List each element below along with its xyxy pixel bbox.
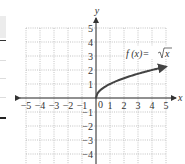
x-tick-label: 4 [150, 100, 155, 111]
x-tick-labels: −5−4−3−2−112345 [21, 100, 169, 111]
x-tick-label: −2 [63, 100, 74, 111]
x-tick-label: 3 [136, 100, 141, 111]
y-tick-label: −2 [82, 121, 93, 132]
y-tick-label: 4 [88, 37, 93, 48]
sqrt-curve [96, 67, 166, 98]
y-axis-label: y [94, 5, 100, 16]
function-label-arg: x [164, 48, 170, 59]
y-tick-label: −1 [82, 107, 93, 118]
origin-label: 0 [98, 99, 103, 110]
x-tick-label: −4 [35, 100, 46, 111]
y-tick-label: −3 [82, 135, 93, 146]
function-label-prefix: f (x)= [126, 48, 149, 60]
x-tick-label: 5 [164, 100, 169, 111]
x-tick-label: 2 [122, 100, 127, 111]
sqrt-function-graph: y x 0 −5−4−3−2−112345 12345−1−2−3−4 f (x… [0, 0, 185, 164]
x-tick-label: −3 [49, 100, 60, 111]
y-tick-label: −4 [82, 149, 93, 160]
y-tick-label: 3 [88, 51, 93, 62]
y-tick-label: 1 [88, 79, 93, 90]
y-tick-labels: 12345−1−2−3−4 [82, 23, 93, 160]
x-axis-label: x [177, 92, 183, 103]
x-tick-label: −5 [21, 100, 32, 111]
y-tick-label: 5 [88, 23, 93, 34]
y-tick-label: 2 [88, 65, 93, 76]
x-tick-label: 1 [108, 100, 113, 111]
function-label: f (x)= x [125, 46, 173, 60]
